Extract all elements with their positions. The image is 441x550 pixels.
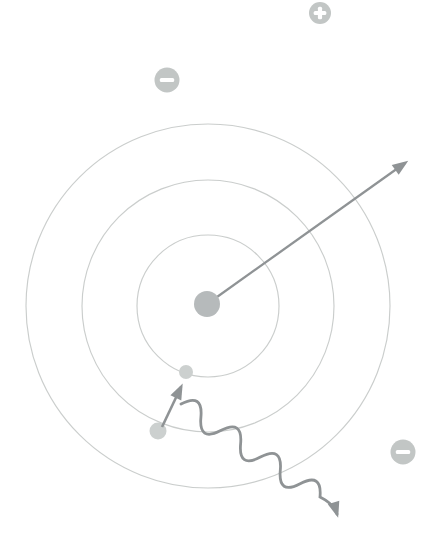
electron xyxy=(179,365,193,379)
electron-transition-arrow xyxy=(162,387,181,427)
figure-canvas xyxy=(0,0,441,550)
ions xyxy=(155,2,416,465)
minus-icon xyxy=(160,78,174,82)
nucleus xyxy=(194,291,220,317)
atom-diagram xyxy=(0,0,441,550)
negative-ion xyxy=(155,68,180,93)
plus-icon-vertical-bar xyxy=(318,7,322,20)
positive-ion xyxy=(309,2,331,24)
photon-wave-arrow xyxy=(181,400,337,514)
minus-icon xyxy=(396,450,410,454)
negative-ion xyxy=(391,440,416,465)
